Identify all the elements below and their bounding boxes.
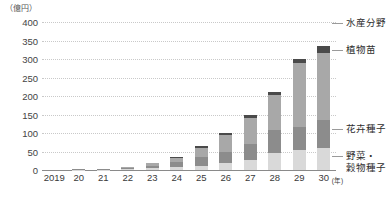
axis-baseline [42, 170, 336, 171]
bar-segment [219, 163, 232, 170]
y-tick-0: 0 [33, 165, 38, 176]
y-axis-unit-label: （億円） [5, 2, 37, 13]
bar-column [121, 167, 134, 170]
bar-segment [195, 166, 208, 170]
bar-segment [317, 120, 330, 148]
bar-segment [268, 130, 281, 153]
bar-segment [268, 153, 281, 170]
bar-segment [121, 169, 134, 170]
callout-label: 植物苗 [346, 44, 376, 55]
bar-column [170, 157, 183, 170]
callout-label: 穀物種子 [346, 162, 386, 173]
bar-segment [244, 118, 257, 144]
x-tick-25: 25 [196, 172, 207, 183]
callout-label: 野菜・ [346, 150, 376, 161]
y-tick-100: 100 [22, 128, 38, 139]
x-tick-21: 21 [98, 172, 109, 183]
callout-leader-line [332, 23, 343, 24]
bar-segment [195, 157, 208, 165]
bar-segment [195, 148, 208, 157]
y-axis-tick-labels: 400350300250200150100500 [0, 22, 40, 170]
callout-leader-line [332, 156, 343, 157]
x-tick-24: 24 [171, 172, 182, 183]
x-tick-29: 29 [294, 172, 305, 183]
x-tick-26: 26 [220, 172, 231, 183]
x-tick-27: 27 [245, 172, 256, 183]
y-tick-350: 350 [22, 35, 38, 46]
bar-series-layer [42, 22, 336, 170]
callout-label: 水産分野 [346, 17, 386, 28]
callout-vegetable_line1: 野菜・ [346, 151, 376, 162]
bar-column [72, 169, 85, 170]
y-tick-150: 150 [22, 109, 38, 120]
stacked-bar-chart: （億円） 400350300250200150100500 2019202122… [0, 0, 386, 208]
x-tick-2019: 2019 [44, 172, 65, 183]
x-axis-tick-labels: 20192021222324252627282930(年) [42, 172, 336, 188]
bar-segment [146, 168, 159, 170]
y-tick-50: 50 [27, 146, 38, 157]
y-tick-400: 400 [22, 17, 38, 28]
x-tick-20: 20 [73, 172, 84, 183]
callout-vegetable_line2: 穀物種子 [346, 163, 386, 174]
bar-segment [268, 95, 281, 130]
y-tick-200: 200 [22, 91, 38, 102]
x-axis-unit-label: (年) [332, 175, 343, 185]
bar-segment [293, 63, 306, 128]
bar-segment [293, 127, 306, 149]
x-tick-30: 30 [318, 172, 329, 183]
bar-segment [244, 144, 257, 160]
bar-column [97, 169, 110, 170]
x-tick-28: 28 [269, 172, 280, 183]
bar-segment [170, 167, 183, 170]
y-tick-250: 250 [22, 72, 38, 83]
callout-fisheries: 水産分野 [346, 18, 386, 29]
bar-column [195, 146, 208, 170]
callout-label: 花卉種子 [346, 123, 386, 134]
bar-column [219, 133, 232, 170]
bar-segment [219, 152, 232, 163]
bar-segment [244, 160, 257, 170]
x-tick-22: 22 [122, 172, 133, 183]
callout-flower: 花卉種子 [346, 124, 386, 135]
bar-segment [219, 135, 232, 153]
callout-leader-line [332, 50, 343, 51]
bar-column [293, 59, 306, 170]
plot-area [42, 22, 336, 170]
callout-seedlings: 植物苗 [346, 45, 376, 56]
bar-column [268, 92, 281, 170]
bar-column [146, 163, 159, 170]
bar-column [244, 115, 257, 170]
y-tick-300: 300 [22, 54, 38, 65]
bar-column [317, 46, 330, 170]
x-tick-23: 23 [147, 172, 158, 183]
bar-segment [317, 148, 330, 170]
callout-leader-line [332, 129, 343, 130]
bar-segment [317, 53, 330, 120]
bar-segment [293, 150, 306, 170]
bar-segment [317, 46, 330, 53]
